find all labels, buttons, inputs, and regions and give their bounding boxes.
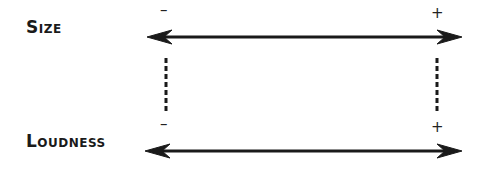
diagram-canvas — [0, 0, 482, 169]
loudness-double-arrow — [145, 144, 462, 158]
size-double-arrow — [147, 30, 462, 44]
